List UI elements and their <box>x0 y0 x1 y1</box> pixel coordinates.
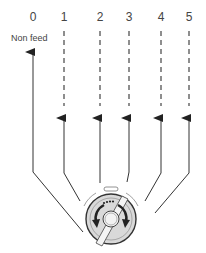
leader-line-4 <box>145 118 161 201</box>
non-feed-label: Non feed <box>11 33 48 43</box>
leader-line-3 <box>127 118 129 182</box>
leader-line-1 <box>64 118 80 201</box>
dashed-lines <box>64 31 189 106</box>
position-label-2: 2 <box>97 10 104 24</box>
position-label-3: 3 <box>126 10 133 24</box>
position-label-5: 5 <box>186 10 193 24</box>
position-label-1: 1 <box>61 10 68 24</box>
feed-dial[interactable] <box>84 187 138 246</box>
leader-line-5 <box>155 118 189 213</box>
leader-line-0 <box>33 52 83 232</box>
position-label-4: 4 <box>158 10 165 24</box>
position-label-0: 0 <box>30 10 37 24</box>
